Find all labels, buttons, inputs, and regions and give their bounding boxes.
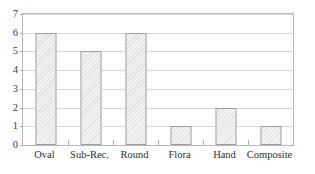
bar[interactable] <box>80 51 101 145</box>
bar[interactable] <box>35 33 56 145</box>
y-axis-tick-label: 6 <box>13 27 18 38</box>
bar-slot <box>248 14 293 145</box>
x-axis-divider <box>248 140 249 145</box>
bar[interactable] <box>125 33 146 145</box>
bar-slot <box>158 14 203 145</box>
y-axis-tick-label: 2 <box>13 102 18 113</box>
y-axis-tick-mark <box>20 145 23 146</box>
plot-area: 01234567 <box>22 13 294 146</box>
y-axis-tick-label: 7 <box>13 9 18 20</box>
x-axis-divider <box>203 140 204 145</box>
bars-group <box>23 14 293 145</box>
bar-slot <box>203 14 248 145</box>
x-axis-divider <box>68 140 69 145</box>
x-axis-category-label: Oval <box>34 148 54 162</box>
x-axis-category-label: Flora <box>168 148 190 162</box>
x-axis-category-label: Composite <box>247 148 293 162</box>
bar-slot <box>113 14 158 145</box>
bar[interactable] <box>215 108 236 145</box>
x-axis-category-label: Hand <box>213 148 236 162</box>
y-axis-tick-label: 0 <box>13 140 18 151</box>
x-axis-labels-group: OvalSub-Rec.RoundFloraHandComposite <box>22 148 294 168</box>
x-axis-category-label: Sub-Rec. <box>70 148 109 162</box>
x-axis-divider <box>113 140 114 145</box>
bar[interactable] <box>170 126 191 145</box>
x-axis-divider <box>158 140 159 145</box>
y-axis-tick-label: 5 <box>13 46 18 57</box>
y-axis-tick-label: 3 <box>13 84 18 95</box>
y-axis-tick-label: 1 <box>13 121 18 132</box>
bar-slot <box>23 14 68 145</box>
x-axis-category-label: Round <box>120 148 148 162</box>
y-axis-tick-label: 4 <box>13 65 18 76</box>
bar-slot <box>68 14 113 145</box>
bar[interactable] <box>260 126 281 145</box>
bar-chart: 01234567 OvalSub-Rec.RoundFloraHandCompo… <box>0 0 315 174</box>
